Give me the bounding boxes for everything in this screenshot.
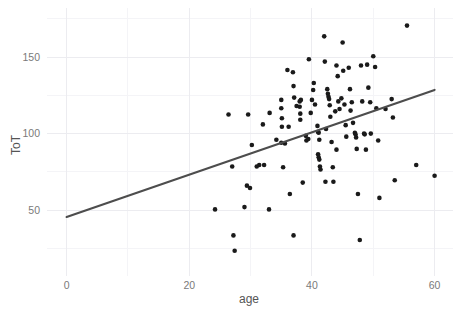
data-point bbox=[334, 147, 339, 152]
data-point bbox=[342, 102, 347, 107]
data-point bbox=[226, 112, 231, 117]
y-tick-label: 50 bbox=[28, 204, 40, 216]
data-point bbox=[364, 147, 369, 152]
data-point bbox=[317, 157, 322, 162]
scatter-plot-figure: 0204060 50100150 age ToT bbox=[0, 0, 458, 314]
data-point bbox=[346, 65, 351, 70]
data-point bbox=[392, 178, 397, 183]
data-point bbox=[323, 180, 328, 185]
data-point bbox=[213, 207, 218, 212]
data-point bbox=[359, 63, 364, 68]
data-point bbox=[311, 81, 316, 86]
data-point bbox=[373, 65, 378, 70]
data-point bbox=[262, 163, 267, 168]
y-tick-label: 100 bbox=[22, 127, 40, 139]
data-point bbox=[291, 70, 296, 75]
data-point bbox=[313, 102, 318, 107]
data-point bbox=[311, 88, 316, 93]
data-point bbox=[279, 106, 284, 111]
y-axis-title: ToT bbox=[9, 134, 23, 155]
data-point bbox=[291, 84, 296, 89]
data-point bbox=[298, 111, 303, 116]
data-point bbox=[354, 135, 359, 140]
data-point bbox=[306, 137, 311, 142]
data-point bbox=[354, 147, 359, 152]
data-point bbox=[246, 112, 251, 117]
data-point bbox=[333, 109, 338, 114]
data-point bbox=[356, 192, 361, 197]
data-point bbox=[366, 85, 371, 90]
y-tick-label: 150 bbox=[22, 51, 40, 63]
data-point bbox=[248, 186, 253, 191]
chart-canvas: 0204060 50100150 age ToT bbox=[0, 0, 458, 314]
data-point bbox=[337, 107, 342, 112]
data-point bbox=[298, 117, 303, 122]
data-point bbox=[280, 116, 285, 121]
data-point bbox=[348, 87, 353, 92]
data-point bbox=[334, 63, 339, 68]
data-point bbox=[281, 165, 286, 170]
data-point bbox=[368, 100, 373, 105]
data-point bbox=[330, 165, 335, 170]
data-point bbox=[348, 108, 353, 113]
data-point bbox=[299, 98, 304, 103]
data-point bbox=[432, 173, 437, 178]
data-point bbox=[308, 111, 313, 116]
data-point bbox=[376, 138, 381, 143]
data-point bbox=[360, 99, 365, 104]
data-point bbox=[307, 57, 312, 62]
data-point bbox=[250, 143, 255, 148]
data-point bbox=[254, 164, 259, 169]
data-point bbox=[340, 40, 345, 45]
data-point bbox=[274, 137, 279, 142]
data-point bbox=[351, 121, 356, 126]
data-point bbox=[294, 104, 299, 109]
data-point bbox=[377, 196, 382, 201]
data-point bbox=[414, 163, 419, 168]
data-point bbox=[350, 100, 355, 105]
data-point bbox=[405, 23, 410, 28]
x-tick-label: 20 bbox=[183, 279, 195, 291]
data-point bbox=[291, 233, 296, 238]
data-point bbox=[267, 111, 272, 116]
data-point bbox=[365, 62, 370, 67]
data-point bbox=[317, 137, 322, 142]
data-point bbox=[315, 124, 320, 129]
data-point bbox=[286, 124, 291, 129]
data-point bbox=[325, 87, 330, 92]
data-point bbox=[292, 95, 297, 100]
data-point bbox=[232, 248, 237, 253]
data-point bbox=[230, 164, 235, 169]
data-point bbox=[267, 207, 272, 212]
data-point bbox=[322, 34, 327, 39]
data-point bbox=[362, 132, 367, 137]
data-point bbox=[329, 140, 334, 145]
x-axis-title: age bbox=[239, 292, 259, 306]
data-point bbox=[344, 134, 349, 139]
data-point bbox=[335, 74, 340, 79]
plot-background bbox=[0, 0, 458, 314]
data-point bbox=[389, 97, 394, 102]
data-point bbox=[371, 54, 376, 59]
data-point bbox=[341, 68, 346, 73]
data-point bbox=[331, 180, 336, 185]
data-point bbox=[391, 115, 396, 120]
data-point bbox=[261, 122, 266, 127]
data-point bbox=[357, 238, 362, 243]
data-point bbox=[288, 192, 293, 197]
x-tick-label: 0 bbox=[64, 279, 70, 291]
data-point bbox=[328, 114, 333, 119]
data-point bbox=[231, 233, 236, 238]
data-point bbox=[310, 98, 315, 103]
data-point bbox=[369, 131, 374, 136]
data-point bbox=[323, 59, 328, 64]
x-tick-label: 60 bbox=[429, 279, 441, 291]
data-point bbox=[279, 98, 284, 103]
data-point bbox=[242, 205, 247, 210]
data-point bbox=[280, 124, 285, 129]
data-point bbox=[327, 103, 332, 108]
x-tick-label: 40 bbox=[306, 279, 318, 291]
data-point bbox=[327, 97, 332, 102]
data-point bbox=[318, 167, 323, 172]
data-point bbox=[343, 123, 348, 128]
